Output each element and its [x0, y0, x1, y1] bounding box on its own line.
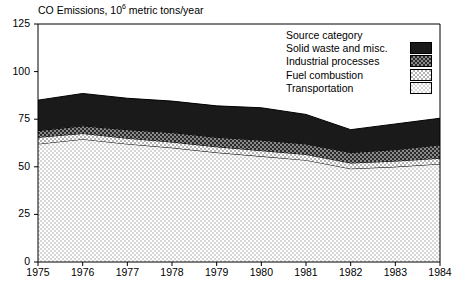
x-axis-tick-label: 1979: [194, 266, 240, 278]
x-axis-tick-label: 1978: [149, 266, 195, 278]
legend-item-label: Solid waste and misc.: [286, 42, 408, 54]
legend-header-row: Source category: [286, 28, 432, 41]
legend-item-label: Transportation: [286, 82, 408, 94]
legend-title: Source category: [286, 29, 408, 41]
legend-entries: Solid waste and misc.Industrial processe…: [286, 41, 432, 95]
legend-item: Transportation: [286, 82, 432, 95]
legend-swatch: [410, 69, 432, 81]
legend-item: Industrial processes: [286, 55, 432, 68]
legend-swatch: [410, 82, 432, 94]
legend-swatch: [410, 55, 432, 67]
legend-swatch: [410, 42, 432, 54]
x-axis-tick-label: 1977: [104, 266, 150, 278]
x-axis-tick-label: 1984: [417, 266, 456, 278]
x-axis-tick-label: 1975: [15, 266, 61, 278]
y-axis-tick-label: 50: [4, 160, 30, 172]
stacked-areas: [38, 93, 440, 262]
x-axis-tick-label: 1976: [60, 266, 106, 278]
legend-item-label: Fuel combustion: [286, 69, 408, 81]
legend-item: Fuel combustion: [286, 68, 432, 81]
x-axis-tick-label: 1980: [238, 266, 284, 278]
y-axis-tick-label: 25: [4, 207, 30, 219]
y-axis-tick-label: 75: [4, 112, 30, 124]
x-axis-tick-label: 1982: [328, 266, 374, 278]
x-axis-tick-label: 1981: [283, 266, 329, 278]
legend-item-label: Industrial processes: [286, 55, 408, 67]
chart-legend: Source category Solid waste and misc.Ind…: [286, 28, 432, 95]
y-axis-tick-label: 125: [4, 17, 30, 29]
legend-header-spacer: [410, 29, 432, 41]
y-axis-tick-label: 100: [4, 65, 30, 77]
x-axis-tick-label: 1983: [372, 266, 418, 278]
legend-item: Solid waste and misc.: [286, 41, 432, 54]
